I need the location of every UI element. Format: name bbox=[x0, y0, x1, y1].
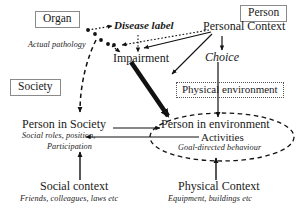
node-person-in-society-sub-participation: Participation bbox=[47, 143, 92, 151]
node-social-context[interactable]: Social context bbox=[40, 180, 108, 192]
node-physical-context-sub: Equipment, buildings etc bbox=[168, 195, 252, 203]
node-personal-context[interactable]: Personal Context bbox=[203, 20, 285, 32]
impairment-to-person-in-environment-thick bbox=[131, 62, 168, 116]
node-person-in-society-sub-roles: Social roles, position, bbox=[22, 132, 95, 140]
organ-to-person-in-society-dashed bbox=[80, 40, 96, 112]
node-person-in-environment-sub-behaviour: Goal-directed behaviour bbox=[178, 144, 261, 152]
diagram-canvas: Organ Person Society Physical environmen… bbox=[0, 0, 302, 214]
node-choice[interactable]: Choice bbox=[205, 51, 239, 63]
domain-box-society[interactable]: Society bbox=[10, 79, 61, 96]
node-person-in-environment-sub-activities: Activities bbox=[201, 132, 244, 143]
domain-box-physical-environment[interactable]: Physical environment bbox=[176, 82, 284, 98]
pathology-to-disease-label-dotted bbox=[86, 26, 116, 47]
node-disease-label[interactable]: Disease label bbox=[114, 20, 174, 31]
node-actual-pathology: Actual pathology bbox=[28, 41, 86, 49]
node-social-context-sub: Friends, colleagues, laws etc bbox=[20, 195, 118, 203]
node-physical-context[interactable]: Physical Context bbox=[178, 180, 260, 192]
node-person-in-environment[interactable]: Person in environment bbox=[161, 118, 270, 130]
node-person-in-society[interactable]: Person in Society bbox=[22, 118, 106, 130]
domain-box-organ[interactable]: Organ bbox=[35, 11, 80, 28]
node-impairment[interactable]: Impairment bbox=[113, 52, 169, 64]
